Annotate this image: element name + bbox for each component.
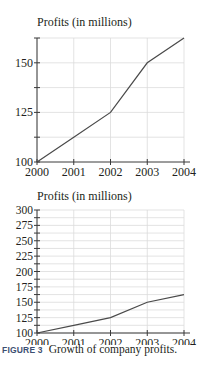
y-axis-title: Profits (in millions) <box>37 15 132 29</box>
y-tick-label: 150 <box>16 296 34 308</box>
y-tick-label: 275 <box>16 219 34 231</box>
y-tick-label: 150 <box>15 56 33 70</box>
profits-chart-zoomed: 10012515020002001200220032004Profits (in… <box>0 0 202 185</box>
y-tick-label: 200 <box>16 266 34 278</box>
y-tick-label: 250 <box>16 235 34 247</box>
figure-caption-text: Growth of company profits. <box>49 343 177 355</box>
x-tick-label: 2002 <box>99 165 123 179</box>
y-tick-label: 125 <box>16 312 34 324</box>
plot-area: 1001251501752002252502753002000200120022… <box>16 189 196 345</box>
x-tick-label: 2000 <box>25 165 49 179</box>
figure-label: FIGURE 3 <box>2 345 43 355</box>
y-tick-label: 125 <box>15 105 33 119</box>
figure-caption: FIGURE 3 Growth of company profits. <box>2 343 177 355</box>
x-tick-label: 2004 <box>172 165 196 179</box>
y-tick-label: 300 <box>16 204 34 216</box>
y-tick-label: 225 <box>16 250 34 262</box>
profits-chart-zoomed-plot: 10012515020002001200220032004Profits (in… <box>0 0 202 185</box>
y-tick-label: 175 <box>16 281 34 293</box>
y-axis-title: Profits (in millions) <box>37 189 132 203</box>
x-tick-label: 2001 <box>62 165 86 179</box>
profits-chart-full-scale-plot: 1001251501752002252502753002000200120022… <box>0 185 202 345</box>
plot-area: 10012515020002001200220032004Profits (in… <box>15 15 196 179</box>
x-tick-label: 2003 <box>135 165 159 179</box>
profits-chart-full-scale: 1001251501752002252502753002000200120022… <box>0 185 202 345</box>
